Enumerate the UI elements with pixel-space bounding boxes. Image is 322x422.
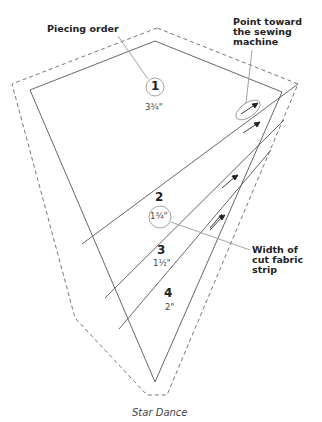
piece-1-number: 1 [151,79,159,93]
piece-4-width: 2" [165,302,174,312]
leader-width-strip [171,222,250,250]
strip-line-3-4 [119,150,271,329]
callout-point-toward: Point toward the sewing machine [233,17,302,47]
callout-width-strip: Width of cut fabric strip [252,245,303,275]
piece-3-number: 3 [157,243,165,257]
piece-2-number: 2 [155,190,163,204]
piece-2-width: 1¾" [150,211,168,221]
highlight-ellipse [233,96,264,124]
piece-1-width: 3¾" [145,102,163,112]
leader-piecing-order [118,36,148,79]
piece-4-number: 4 [164,286,172,300]
callout-piecing-order: Piecing order [47,24,119,34]
leader-point-toward [246,50,252,103]
strip-line-1-2 [82,84,298,244]
figure-caption: Star Dance [132,407,188,418]
piece-3-width: 1½" [153,258,171,268]
arrow-icon [210,103,260,230]
callout-line: strip [252,265,303,275]
callout-line: machine [233,37,302,47]
